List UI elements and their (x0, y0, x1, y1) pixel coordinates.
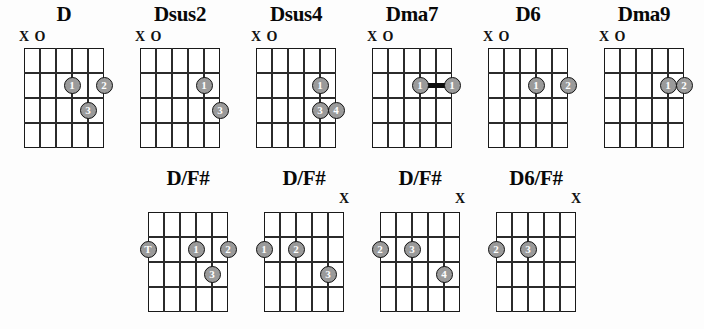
finger-dot: 3 (212, 102, 229, 119)
fret-line (264, 236, 344, 238)
chord-diagram: D123XO (6, 0, 122, 164)
fretboard-grid: 134 (256, 48, 336, 148)
chord-diagram: Dma912XO (586, 0, 702, 164)
muted-string-marker: X (17, 30, 31, 44)
fret-line (264, 286, 344, 288)
fret-line (496, 261, 576, 263)
fretboard-grid: T123 (148, 212, 228, 312)
muted-string-marker: X (337, 192, 351, 206)
fret-line (264, 261, 344, 263)
fretboard-grid: 23 (496, 212, 576, 312)
open-string-marker: O (265, 30, 279, 44)
finger-dot: 2 (220, 241, 237, 258)
finger-dot: 4 (436, 266, 453, 283)
finger-dot: 3 (80, 102, 97, 119)
finger-dot: 3 (520, 241, 537, 258)
fret-line (148, 236, 228, 238)
finger-dot: 1 (196, 77, 213, 94)
fret-line (372, 97, 452, 99)
chord-name-label: D6 (470, 2, 586, 26)
fretboard-grid: 123 (24, 48, 104, 148)
fret-line (256, 97, 336, 99)
fret-line (380, 286, 460, 288)
chord-name-label: D/F# (246, 166, 362, 190)
finger-dot: 1 (528, 77, 545, 94)
muted-string-marker: X (597, 30, 611, 44)
muted-string-marker: X (249, 30, 263, 44)
chord-name-label: D (6, 2, 122, 26)
fret-line (496, 236, 576, 238)
finger-dot: 2 (372, 241, 389, 258)
finger-dot: 1 (412, 77, 429, 94)
finger-dot: 4 (328, 102, 345, 119)
muted-string-marker: X (453, 192, 467, 206)
finger-dot: 3 (204, 266, 221, 283)
fret-line (256, 72, 336, 74)
fret-line (604, 72, 684, 74)
chord-diagram: D/F#234X (362, 164, 478, 328)
fret-line (24, 122, 104, 124)
fret-line (380, 261, 460, 263)
finger-dot: 2 (288, 241, 305, 258)
finger-dot: 2 (676, 77, 693, 94)
finger-dot: 1 (312, 77, 329, 94)
finger-dot: 3 (404, 241, 421, 258)
chord-diagram: Dsus213XO (122, 0, 238, 164)
chord-name-label: Dsus2 (122, 2, 238, 26)
muted-string-marker: X (133, 30, 147, 44)
fret-line (372, 122, 452, 124)
open-string-marker: O (497, 30, 511, 44)
fret-line (488, 97, 568, 99)
finger-dot: 1 (256, 241, 273, 258)
chord-chart-sheet: D123XODsus213XODsus4134XODma711XOD612XOD… (0, 0, 704, 329)
chord-name-label: D6/F# (478, 166, 594, 190)
finger-dot: 3 (312, 102, 329, 119)
finger-dot: 3 (320, 266, 337, 283)
open-string-marker: O (613, 30, 627, 44)
chord-diagram: Dsus4134XO (238, 0, 354, 164)
fret-line (380, 236, 460, 238)
finger-dot: T (140, 241, 157, 258)
finger-dot: 1 (660, 77, 677, 94)
chord-name-label: D/F# (362, 166, 478, 190)
muted-string-marker: X (365, 30, 379, 44)
fret-line (148, 286, 228, 288)
fret-line (24, 72, 104, 74)
fret-line (24, 97, 104, 99)
muted-string-marker: X (481, 30, 495, 44)
finger-dot: 2 (560, 77, 577, 94)
chord-row-top: D123XODsus213XODsus4134XODma711XOD612XOD… (0, 0, 704, 164)
fretboard-grid: 234 (380, 212, 460, 312)
chord-name-label: Dsus4 (238, 2, 354, 26)
muted-string-marker: X (569, 192, 583, 206)
open-string-marker: O (149, 30, 163, 44)
chord-row-bottom: D/F#T123D/F#123XD/F#234XD6/F#23X (0, 164, 704, 328)
chord-name-label: D/F# (130, 166, 246, 190)
chord-diagram: D6/F#23X (478, 164, 594, 328)
fret-line (256, 122, 336, 124)
fret-line (140, 72, 220, 74)
finger-dot: 1 (64, 77, 81, 94)
fretboard-grid: 12 (488, 48, 568, 148)
fretboard-grid: 123 (264, 212, 344, 312)
fretboard-grid: 11 (372, 48, 452, 148)
open-string-marker: O (381, 30, 395, 44)
fretboard-grid: 12 (604, 48, 684, 148)
chord-diagram: D/F#123X (246, 164, 362, 328)
fret-line (604, 122, 684, 124)
fret-line (488, 72, 568, 74)
fret-line (140, 97, 220, 99)
fret-line (604, 97, 684, 99)
fret-line (140, 122, 220, 124)
open-string-marker: O (33, 30, 47, 44)
finger-dot: 2 (96, 77, 113, 94)
fret-line (148, 261, 228, 263)
chord-name-label: Dma7 (354, 2, 470, 26)
chord-name-label: Dma9 (586, 2, 702, 26)
chord-diagram: D612XO (470, 0, 586, 164)
fret-line (496, 286, 576, 288)
chord-diagram: D/F#T123 (130, 164, 246, 328)
fretboard-grid: 13 (140, 48, 220, 148)
fret-line (372, 72, 452, 74)
chord-diagram: Dma711XO (354, 0, 470, 164)
